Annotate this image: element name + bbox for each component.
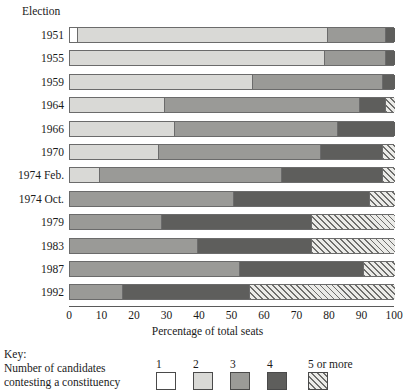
bar-segment xyxy=(252,75,382,89)
bar-segment xyxy=(359,98,385,112)
y-axis-tick-label: 1955 xyxy=(41,50,64,66)
bar-segment xyxy=(174,122,337,136)
bar-segment xyxy=(99,168,281,182)
x-axis-tick-label: 40 xyxy=(193,307,205,323)
bar-segment xyxy=(233,192,370,206)
stacked-bar xyxy=(69,191,394,207)
x-axis-tick-labels: 0102030405060708090100 xyxy=(69,307,394,325)
stacked-bar xyxy=(69,50,394,66)
y-axis-tick-label: 1992 xyxy=(41,284,64,300)
hatched-swatch xyxy=(308,372,328,390)
y-axis-title: Election xyxy=(22,5,60,18)
legend-description-line-2: contesting a constituency xyxy=(4,376,120,390)
x-axis-tick-label: 80 xyxy=(323,307,335,323)
bar-segment xyxy=(385,98,395,112)
bar-segment xyxy=(77,28,327,42)
plot-area xyxy=(69,24,394,306)
bar-row xyxy=(69,214,394,230)
bar-segment xyxy=(385,51,395,65)
x-axis-tick-label: 60 xyxy=(258,307,270,323)
bar-segment xyxy=(70,192,233,206)
bar-segment xyxy=(239,262,363,276)
bar-row xyxy=(69,144,394,160)
bar-segment xyxy=(249,285,395,299)
bar-row xyxy=(69,284,394,300)
bar-segment xyxy=(324,51,386,65)
bar-segment xyxy=(70,168,99,182)
bar-segment xyxy=(382,145,395,159)
stacked-bar xyxy=(69,144,394,160)
x-axis-tick-label: 50 xyxy=(226,307,238,323)
stacked-bar xyxy=(69,27,394,43)
bar-segment xyxy=(327,28,386,42)
y-axis-tick-label: 1959 xyxy=(41,74,64,90)
bar-segment xyxy=(70,75,252,89)
y-axis-tick-label: 1966 xyxy=(41,121,64,137)
bar-row xyxy=(69,238,394,254)
x-axis-tick-label: 30 xyxy=(161,307,173,323)
mid-grey-swatch xyxy=(230,372,250,390)
y-axis-tick-label: 1983 xyxy=(41,238,64,254)
stacked-bar xyxy=(69,284,394,300)
legend-description: Number of candidates contesting a consti… xyxy=(4,362,120,389)
light-grey-swatch xyxy=(193,372,213,390)
y-axis-tick-label: 1970 xyxy=(41,144,64,160)
bar-segment xyxy=(281,168,382,182)
bar-segment xyxy=(70,262,239,276)
legend-item-label: 4 xyxy=(267,358,273,371)
legend-item-label: 3 xyxy=(230,358,236,371)
bar-segment xyxy=(337,122,396,136)
bar-segment xyxy=(161,215,311,229)
stacked-bar xyxy=(69,121,394,137)
bar-segment xyxy=(70,51,324,65)
bar-row xyxy=(69,121,394,137)
stacked-bar xyxy=(69,74,394,90)
stacked-bar xyxy=(69,214,394,230)
legend-item-label: 5 or more xyxy=(308,358,353,371)
x-axis-tick-label: 70 xyxy=(291,307,303,323)
bar-segment xyxy=(70,122,174,136)
y-axis-tick-label: 1987 xyxy=(41,261,64,277)
stacked-bar xyxy=(69,167,394,183)
y-axis-tick-label: 1964 xyxy=(41,97,64,113)
legend-item-label: 2 xyxy=(193,358,199,371)
y-axis-tick-labels: 1951195519591964196619701974 Feb.1974 Oc… xyxy=(0,24,64,306)
bar-segment xyxy=(311,215,396,229)
stacked-bar xyxy=(69,97,394,113)
bar-segment xyxy=(382,75,395,89)
bar-row xyxy=(69,27,394,43)
legend-heading: Key: xyxy=(4,348,26,361)
bar-segment xyxy=(311,239,396,253)
bar-segment xyxy=(158,145,321,159)
x-axis-tick-label: 20 xyxy=(128,307,140,323)
y-axis-tick-label: 1951 xyxy=(41,27,64,43)
y-axis-tick-label: 1979 xyxy=(41,214,64,230)
y-axis-tick-label: 1974 Feb. xyxy=(18,167,64,183)
bar-segment xyxy=(197,239,311,253)
bar-segment xyxy=(385,28,395,42)
x-axis-tick-label: 100 xyxy=(385,307,402,323)
bar-segment xyxy=(122,285,249,299)
bar-segment xyxy=(70,215,161,229)
bar-row xyxy=(69,74,394,90)
bar-segment xyxy=(70,285,122,299)
x-axis-tick-label: 10 xyxy=(96,307,108,323)
bar-segment xyxy=(363,262,396,276)
x-axis-tick-label: 90 xyxy=(356,307,368,323)
dark-grey-swatch xyxy=(267,372,287,390)
bar-segment xyxy=(70,98,164,112)
x-axis-title: Percentage of total seats xyxy=(0,325,415,337)
bar-row xyxy=(69,191,394,207)
bar-segment xyxy=(70,145,158,159)
bar-segment xyxy=(382,168,395,182)
legend-item-label: 1 xyxy=(156,358,162,371)
stacked-bar xyxy=(69,238,394,254)
bar-segment xyxy=(320,145,382,159)
bar-row xyxy=(69,261,394,277)
stacked-bar xyxy=(69,261,394,277)
bar-row xyxy=(69,50,394,66)
bar-segment xyxy=(164,98,359,112)
bar-row xyxy=(69,97,394,113)
legend-description-line-1: Number of candidates xyxy=(4,362,120,376)
bar-segment xyxy=(70,239,197,253)
